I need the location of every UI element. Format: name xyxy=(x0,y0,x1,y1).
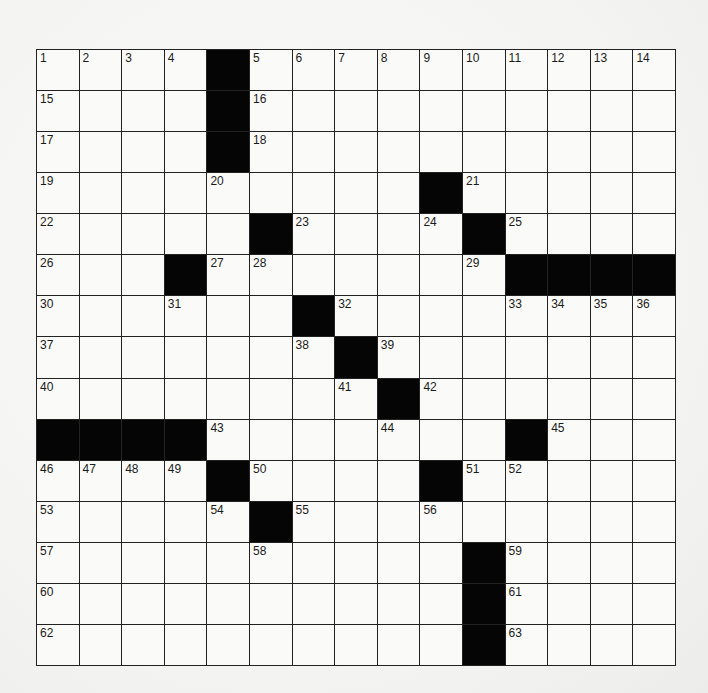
grid-cell[interactable] xyxy=(591,461,633,501)
grid-cell[interactable] xyxy=(463,132,505,172)
grid-cell[interactable]: 14 xyxy=(633,50,675,90)
grid-cell[interactable] xyxy=(548,214,590,254)
grid-cell[interactable] xyxy=(378,584,420,624)
grid-cell[interactable]: 47 xyxy=(80,461,122,501)
grid-cell[interactable]: 20 xyxy=(207,173,249,213)
grid-cell[interactable] xyxy=(591,91,633,131)
grid-cell[interactable]: 45 xyxy=(548,420,590,460)
grid-cell[interactable] xyxy=(591,420,633,460)
grid-cell[interactable] xyxy=(122,255,164,295)
grid-cell[interactable]: 33 xyxy=(506,296,548,336)
grid-cell[interactable]: 52 xyxy=(506,461,548,501)
grid-cell[interactable] xyxy=(207,214,249,254)
grid-cell[interactable] xyxy=(122,584,164,624)
grid-cell[interactable]: 53 xyxy=(37,502,79,542)
grid-cell[interactable] xyxy=(335,255,377,295)
grid-cell[interactable] xyxy=(80,543,122,583)
grid-cell[interactable] xyxy=(506,173,548,213)
grid-cell[interactable] xyxy=(335,420,377,460)
grid-cell[interactable]: 4 xyxy=(165,50,207,90)
grid-cell[interactable] xyxy=(122,502,164,542)
grid-cell[interactable]: 43 xyxy=(207,420,249,460)
grid-cell[interactable]: 55 xyxy=(293,502,335,542)
grid-cell[interactable] xyxy=(165,502,207,542)
grid-cell[interactable] xyxy=(80,91,122,131)
grid-cell[interactable]: 17 xyxy=(37,132,79,172)
grid-cell[interactable]: 60 xyxy=(37,584,79,624)
grid-cell[interactable]: 50 xyxy=(250,461,292,501)
grid-cell[interactable]: 18 xyxy=(250,132,292,172)
grid-cell[interactable]: 34 xyxy=(548,296,590,336)
grid-cell[interactable]: 62 xyxy=(37,625,79,665)
grid-cell[interactable] xyxy=(293,91,335,131)
grid-cell[interactable] xyxy=(633,543,675,583)
grid-cell[interactable] xyxy=(293,584,335,624)
grid-cell[interactable] xyxy=(122,337,164,377)
grid-cell[interactable]: 35 xyxy=(591,296,633,336)
grid-cell[interactable] xyxy=(165,543,207,583)
grid-cell[interactable] xyxy=(378,255,420,295)
grid-cell[interactable] xyxy=(80,337,122,377)
grid-cell[interactable] xyxy=(420,255,462,295)
grid-cell[interactable] xyxy=(591,132,633,172)
grid-cell[interactable]: 7 xyxy=(335,50,377,90)
grid-cell[interactable]: 13 xyxy=(591,50,633,90)
grid-cell[interactable] xyxy=(122,173,164,213)
grid-cell[interactable] xyxy=(122,296,164,336)
grid-cell[interactable] xyxy=(591,173,633,213)
grid-cell[interactable]: 44 xyxy=(378,420,420,460)
grid-cell[interactable] xyxy=(548,379,590,419)
grid-cell[interactable] xyxy=(293,461,335,501)
grid-cell[interactable] xyxy=(548,91,590,131)
grid-cell[interactable] xyxy=(633,584,675,624)
grid-cell[interactable] xyxy=(378,625,420,665)
grid-cell[interactable] xyxy=(80,173,122,213)
grid-cell[interactable]: 48 xyxy=(122,461,164,501)
grid-cell[interactable] xyxy=(591,214,633,254)
grid-cell[interactable] xyxy=(335,91,377,131)
grid-cell[interactable]: 24 xyxy=(420,214,462,254)
grid-cell[interactable]: 2 xyxy=(80,50,122,90)
grid-cell[interactable] xyxy=(633,173,675,213)
grid-cell[interactable] xyxy=(463,91,505,131)
grid-cell[interactable] xyxy=(207,625,249,665)
grid-cell[interactable]: 38 xyxy=(293,337,335,377)
grid-cell[interactable] xyxy=(250,337,292,377)
grid-cell[interactable] xyxy=(591,337,633,377)
grid-cell[interactable] xyxy=(165,337,207,377)
grid-cell[interactable] xyxy=(463,296,505,336)
grid-cell[interactable] xyxy=(463,502,505,542)
grid-cell[interactable] xyxy=(165,584,207,624)
grid-cell[interactable] xyxy=(80,214,122,254)
grid-cell[interactable] xyxy=(80,296,122,336)
grid-cell[interactable] xyxy=(335,502,377,542)
grid-cell[interactable]: 26 xyxy=(37,255,79,295)
grid-cell[interactable]: 51 xyxy=(463,461,505,501)
grid-cell[interactable] xyxy=(548,625,590,665)
grid-cell[interactable] xyxy=(420,91,462,131)
grid-cell[interactable] xyxy=(207,337,249,377)
grid-cell[interactable] xyxy=(378,91,420,131)
grid-cell[interactable]: 9 xyxy=(420,50,462,90)
grid-cell[interactable]: 8 xyxy=(378,50,420,90)
grid-cell[interactable] xyxy=(80,625,122,665)
grid-cell[interactable]: 11 xyxy=(506,50,548,90)
grid-cell[interactable] xyxy=(548,543,590,583)
grid-cell[interactable] xyxy=(378,296,420,336)
grid-cell[interactable] xyxy=(165,173,207,213)
grid-cell[interactable] xyxy=(293,420,335,460)
grid-cell[interactable]: 28 xyxy=(250,255,292,295)
grid-cell[interactable]: 31 xyxy=(165,296,207,336)
grid-cell[interactable] xyxy=(591,502,633,542)
grid-cell[interactable]: 41 xyxy=(335,379,377,419)
grid-cell[interactable] xyxy=(548,502,590,542)
grid-cell[interactable] xyxy=(548,461,590,501)
grid-cell[interactable]: 39 xyxy=(378,337,420,377)
grid-cell[interactable] xyxy=(591,379,633,419)
grid-cell[interactable]: 30 xyxy=(37,296,79,336)
grid-cell[interactable] xyxy=(633,625,675,665)
grid-cell[interactable] xyxy=(122,543,164,583)
grid-cell[interactable] xyxy=(506,132,548,172)
grid-cell[interactable]: 23 xyxy=(293,214,335,254)
grid-cell[interactable]: 3 xyxy=(122,50,164,90)
